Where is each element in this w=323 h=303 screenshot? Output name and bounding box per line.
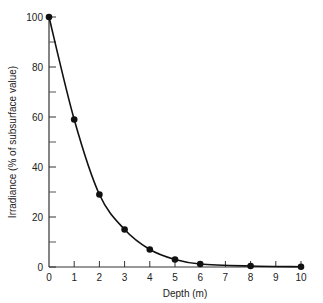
x-tick-label: 7 [223,272,229,283]
data-line [49,17,301,267]
x-tick-label: 9 [273,272,279,283]
data-point-marker [96,191,103,198]
x-axis-title: Depth (m) [163,288,207,299]
x-tick-label: 1 [71,272,77,283]
x-tick-label: 5 [172,272,178,283]
data-point-marker [46,14,53,21]
y-tick-label: 80 [32,62,44,73]
chart-canvas: 020406080100012345678910Depth (m)Irradia… [0,0,323,303]
data-point-marker [121,226,128,233]
x-tick-label: 4 [147,272,153,283]
x-tick-label: 3 [122,272,128,283]
y-tick-label: 100 [26,12,43,23]
y-tick-label: 0 [37,262,43,273]
y-tick-label: 20 [32,212,44,223]
data-point-marker [71,116,78,123]
x-tick-label: 8 [248,272,254,283]
data-point-marker [172,256,179,263]
data-point-marker [147,246,154,253]
x-tick-label: 6 [197,272,203,283]
x-tick-label: 2 [97,272,103,283]
y-axis-title: Irradiance (% of subsurface value) [7,66,18,218]
y-tick-label: 40 [32,162,44,173]
chart: 020406080100012345678910Depth (m)Irradia… [0,0,323,303]
y-tick-label: 60 [32,112,44,123]
x-tick-label: 10 [295,272,307,283]
data-point-marker [197,261,204,268]
data-point-marker [247,263,254,270]
data-point-marker [298,263,305,270]
x-tick-label: 0 [46,272,52,283]
